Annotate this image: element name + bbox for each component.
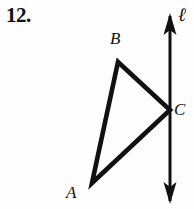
vertex-label-b: B — [110, 30, 120, 48]
geometry-figure-svg — [0, 0, 194, 209]
vertex-label-a: A — [66, 184, 76, 202]
triangle-abc — [92, 62, 170, 183]
vertex-label-c: C — [174, 101, 185, 119]
line-label-l: ℓ — [178, 5, 186, 25]
figure-container: 12. B C A ℓ — [0, 0, 194, 209]
